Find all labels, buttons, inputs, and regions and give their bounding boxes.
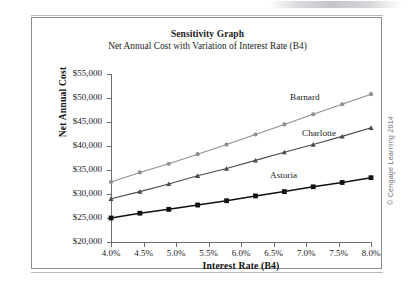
x-tick <box>371 242 372 247</box>
data-point-marker <box>311 112 315 116</box>
data-point-marker <box>311 184 316 189</box>
page-rule-top <box>31 15 383 16</box>
x-tick <box>144 242 145 247</box>
x-axis-title: Interest Rate (B4) <box>111 260 371 271</box>
x-tick <box>306 242 307 247</box>
series-plot <box>111 74 371 242</box>
scan-artifact <box>270 1 402 8</box>
x-tick <box>339 242 340 247</box>
series-label-astoria: Astoria <box>270 170 297 180</box>
x-tick <box>209 242 210 247</box>
plot-area: $20,000$25,000$30,000$35,000$40,000$45,0… <box>111 74 371 242</box>
series-line <box>111 94 371 182</box>
y-tick-label: $45,000 <box>73 116 102 126</box>
data-point-marker <box>224 142 228 146</box>
x-tick-label: 6.0% <box>232 248 251 258</box>
y-tick-label: $30,000 <box>73 188 102 198</box>
data-point-marker <box>282 189 287 194</box>
data-point-marker <box>340 180 345 185</box>
data-point-marker <box>167 162 171 166</box>
x-tick-label: 6.5% <box>264 248 283 258</box>
data-point-marker <box>369 92 373 96</box>
data-point-marker <box>369 175 374 180</box>
series-barnard <box>109 92 373 184</box>
x-tick-label: 5.5% <box>199 248 218 258</box>
sensitivity-graph-figure: Sensitivity Graph Net Annual Cost with V… <box>0 0 409 288</box>
data-point-marker <box>340 102 344 106</box>
series-line <box>111 128 371 199</box>
y-tick-label: $50,000 <box>73 92 102 102</box>
data-point-marker <box>282 122 286 126</box>
chart-title: Sensitivity Graph <box>32 29 383 40</box>
page-rule-bottom <box>31 272 383 273</box>
x-tick <box>111 242 112 247</box>
x-tick <box>274 242 275 247</box>
chart-frame: Sensitivity Graph Net Annual Cost with V… <box>31 17 382 269</box>
x-tick-label: 7.0% <box>297 248 316 258</box>
data-point-marker <box>109 180 113 184</box>
data-point-marker <box>224 198 229 203</box>
x-tick-label: 4.5% <box>134 248 153 258</box>
copyright-credit: © Cengage Learning 2014 <box>386 116 395 205</box>
y-tick-label: $20,000 <box>73 236 102 246</box>
y-tick-label: $40,000 <box>73 140 102 150</box>
data-point-marker <box>109 216 114 221</box>
series-line <box>111 178 371 218</box>
data-point-marker <box>166 207 171 212</box>
data-point-marker <box>137 211 142 216</box>
x-tick-label: 7.5% <box>329 248 348 258</box>
y-tick-label: $55,000 <box>73 68 102 78</box>
series-astoria <box>109 175 374 220</box>
data-point-marker <box>138 170 142 174</box>
data-point-marker <box>195 203 200 208</box>
x-tick-label: 5.0% <box>167 248 186 258</box>
y-tick-label: $35,000 <box>73 164 102 174</box>
chart-title-block: Sensitivity Graph Net Annual Cost with V… <box>32 29 383 51</box>
x-tick-label: 4.0% <box>102 248 121 258</box>
chart-subtitle: Net Annual Cost with Variation of Intere… <box>32 41 383 51</box>
data-point-marker <box>196 152 200 156</box>
data-point-marker <box>253 194 258 199</box>
series-label-barnard: Barnard <box>290 92 320 102</box>
series-label-charlotte: Charlotte <box>302 128 336 138</box>
data-point-marker <box>253 132 257 136</box>
data-point-marker <box>369 125 374 130</box>
x-tick <box>241 242 242 247</box>
y-tick-label: $25,000 <box>73 212 102 222</box>
x-tick <box>176 242 177 247</box>
y-axis-title: Net Annual Cost <box>57 67 68 138</box>
x-tick-label: 8.0% <box>362 248 381 258</box>
